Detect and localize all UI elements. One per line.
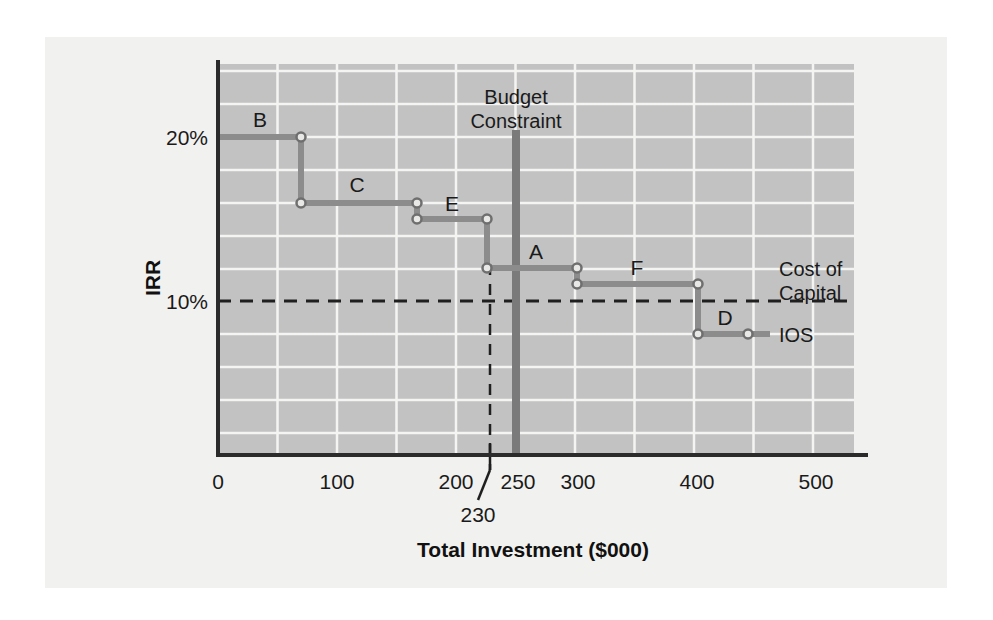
cost-of-capital-label-line1: Cost of [779, 258, 843, 280]
segment-label-D: D [717, 306, 732, 329]
cost-of-capital-label-line2: Capital [779, 282, 841, 304]
segment-label-B: B [253, 108, 267, 131]
investment-opportunity-schedule-chart: 20% 10% IRR 0 100 200 250 300 400 500 23… [0, 0, 993, 620]
budget-constraint-label-line1: Budget [484, 86, 548, 108]
ytick-label-10: 10% [166, 290, 208, 313]
xtick-label-400: 400 [679, 470, 714, 493]
xtick-label-300: 300 [560, 470, 595, 493]
xtick-label-250: 250 [500, 470, 535, 493]
xtick-label-0: 0 [212, 470, 224, 493]
budget-constraint-label-line2: Constraint [470, 110, 562, 132]
segment-label-F: F [631, 256, 644, 279]
x-axis-title: Total Investment ($000) [417, 538, 649, 561]
segment-label-E: E [445, 192, 459, 215]
budget-230-label: 230 [460, 503, 495, 526]
xtick-label-100: 100 [319, 470, 354, 493]
ios-legend-label: IOS [779, 324, 813, 346]
ytick-label-20: 20% [166, 126, 208, 149]
segment-label-A: A [529, 240, 543, 263]
segment-label-C: C [349, 173, 364, 196]
xtick-label-500: 500 [798, 470, 833, 493]
y-axis-title: IRR [141, 260, 164, 296]
budget-230-leader [478, 470, 490, 500]
xtick-label-200: 200 [438, 470, 473, 493]
